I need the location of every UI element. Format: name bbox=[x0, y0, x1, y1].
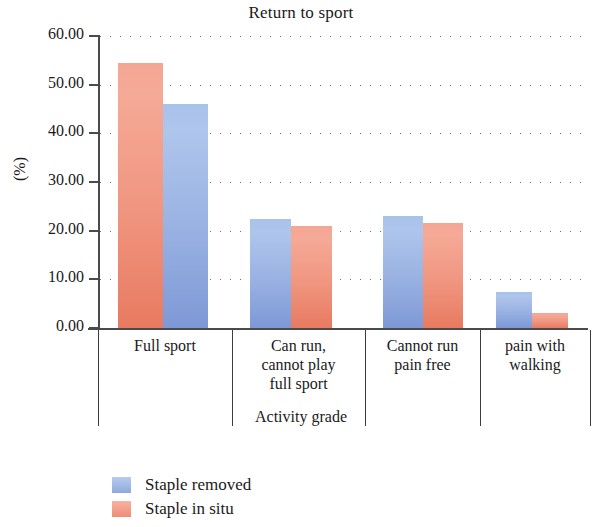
category-label-line: cannot play bbox=[232, 355, 365, 374]
category-label-line: pain free bbox=[365, 355, 480, 374]
bars-layer bbox=[98, 36, 590, 328]
category-label-line: walking bbox=[480, 355, 590, 374]
legend-item-staple-removed: Staple removed bbox=[112, 473, 251, 497]
chart-container: Return to sport (%) 60.00 50.00 40.00 bbox=[0, 0, 602, 527]
category-label-can-run-cannot-play-full-sport: Can run, cannot play full sport bbox=[232, 336, 365, 393]
category-label-full-sport: Full sport bbox=[98, 336, 232, 355]
category-label-pain-with-walking: pain with walking bbox=[480, 336, 590, 374]
y-tick-label: 30.00 bbox=[6, 171, 84, 189]
x-axis-title: Activity grade bbox=[0, 408, 602, 426]
legend-label: Staple in situ bbox=[145, 499, 234, 519]
legend-item-staple-in-situ: Staple in situ bbox=[112, 497, 251, 521]
category-label-line: Can run, bbox=[232, 336, 365, 355]
plot-area: 60.00 50.00 40.00 30.00 20.00 bbox=[98, 36, 590, 328]
chart-title: Return to sport bbox=[0, 3, 602, 23]
bar-staple-in-situ bbox=[532, 313, 568, 328]
legend-swatch-icon bbox=[112, 477, 131, 493]
y-tick-label: 20.00 bbox=[6, 220, 84, 238]
x-axis-line bbox=[88, 328, 588, 330]
bar-staple-in-situ bbox=[423, 223, 463, 328]
bar-staple-removed bbox=[496, 292, 532, 328]
legend-label: Staple removed bbox=[145, 475, 251, 495]
y-tick-label: 40.00 bbox=[6, 122, 84, 140]
y-tick-label: 10.00 bbox=[6, 268, 84, 286]
y-axis-title: (%) bbox=[11, 139, 29, 199]
y-tick-label: 0.00 bbox=[6, 317, 84, 335]
bar-staple-removed bbox=[163, 104, 208, 328]
category-label-line: pain with bbox=[480, 336, 590, 355]
y-tick-label: 60.00 bbox=[6, 25, 84, 43]
legend-swatch-icon bbox=[112, 501, 131, 517]
category-label-cannot-run-pain-free: Cannot run pain free bbox=[365, 336, 480, 374]
bar-staple-in-situ bbox=[118, 63, 163, 328]
bar-staple-removed bbox=[250, 219, 291, 329]
bar-staple-removed bbox=[383, 216, 423, 328]
category-label-line: Cannot run bbox=[365, 336, 480, 355]
legend: Staple removed Staple in situ bbox=[112, 473, 251, 521]
category-label-line: full sport bbox=[232, 374, 365, 393]
bar-staple-in-situ bbox=[291, 226, 332, 328]
y-tick-label: 50.00 bbox=[6, 74, 84, 92]
category-label-line: Full sport bbox=[98, 336, 232, 355]
